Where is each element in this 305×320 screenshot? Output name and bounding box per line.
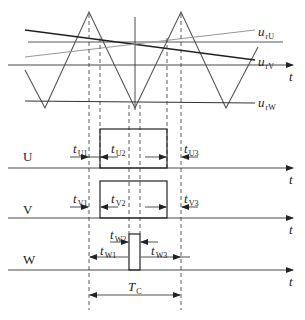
w-pulse — [129, 234, 140, 270]
tU3-label: tU3 — [184, 142, 198, 158]
carrier-section — [8, 12, 293, 110]
t-axis-label-top: t — [289, 70, 293, 83]
tc-label: TC — [128, 280, 142, 296]
tV1-label: tV1 — [73, 192, 87, 208]
t-axis-label-w: t — [289, 275, 293, 288]
phase-u-row — [8, 129, 293, 168]
u-rW-reference-line — [25, 101, 255, 103]
tU2-label: tU2 — [111, 142, 125, 158]
t-axis-label-u: t — [289, 173, 293, 186]
tV3-label: tV3 — [184, 192, 198, 208]
u-rV-label: urV — [258, 55, 274, 71]
phase-v-label: V — [23, 203, 32, 216]
triangle-carrier-wave — [25, 12, 258, 108]
phase-w-label: W — [23, 253, 35, 266]
u-rW-label: urW — [258, 96, 276, 112]
phase-u-label: U — [23, 150, 32, 163]
timing-diagram — [0, 0, 305, 320]
tW1-label: tW1 — [100, 244, 116, 260]
t-axis-label-v: t — [289, 223, 293, 236]
tW2-label: tW2 — [110, 228, 126, 244]
tU1-label: tU1 — [73, 142, 87, 158]
tV2-label: tV2 — [111, 192, 125, 208]
tW3-label: tW3 — [151, 244, 167, 260]
u-rU-label: urU — [258, 25, 274, 41]
phase-v-row — [8, 181, 293, 218]
